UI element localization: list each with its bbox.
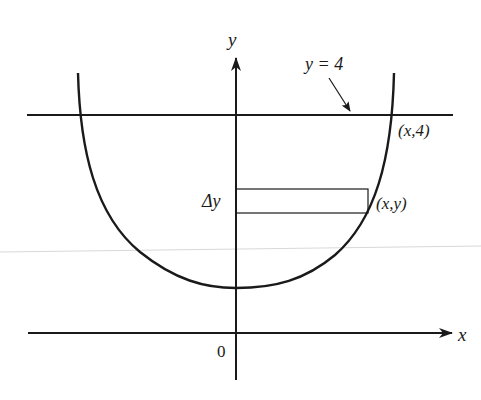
y4-pointer-arrow: [329, 78, 350, 111]
point-x4-label: (x,4): [398, 121, 430, 140]
scan-artifact-line: [0, 246, 481, 252]
y-axis-label: y: [226, 29, 237, 50]
diagram-figure: y x 0 y = 4 (x,4) (x,y) Δy: [0, 0, 481, 400]
delta-y-label: Δy: [201, 191, 221, 211]
point-xy-label: (x,y): [376, 194, 407, 213]
line-y4-label: y = 4: [303, 54, 343, 74]
x-axis-label: x: [457, 324, 467, 345]
strip-rectangle: [236, 189, 368, 213]
origin-label: 0: [217, 342, 226, 361]
